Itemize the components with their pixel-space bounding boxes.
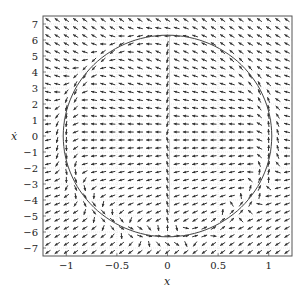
- y-tick-label: 2: [32, 99, 38, 110]
- y-tick-label: 5: [32, 51, 38, 62]
- y-tick-label: 7: [32, 19, 38, 30]
- y-tick-label: −2: [23, 163, 38, 174]
- y-tick-label: −6: [23, 227, 38, 238]
- x-tick-label: 0.5: [210, 260, 226, 271]
- y-tick-label: −3: [23, 179, 38, 190]
- y-tick-label: −5: [23, 211, 38, 222]
- x-tick-label: −0.5: [105, 260, 129, 271]
- x-tick-label: 0: [164, 260, 170, 271]
- y-tick-label: −1: [23, 147, 38, 158]
- vector-field-chart: −1−0.500.51 76543210−1−2−3−4−5−6−7 x ẋ: [0, 0, 305, 292]
- y-tick-label: 1: [32, 115, 38, 126]
- y-tick-label: −4: [23, 195, 38, 206]
- y-axis-label: ẋ: [11, 130, 18, 143]
- x-tick-label: −1: [59, 260, 74, 271]
- x-tick-label: 1: [266, 260, 272, 271]
- y-tick-label: 6: [32, 35, 38, 46]
- y-tick-label: 0: [32, 131, 38, 142]
- y-tick-label: 4: [32, 67, 38, 78]
- x-axis-label: x: [164, 275, 171, 288]
- y-tick-label: 3: [32, 83, 38, 94]
- y-tick-label: −7: [23, 243, 38, 254]
